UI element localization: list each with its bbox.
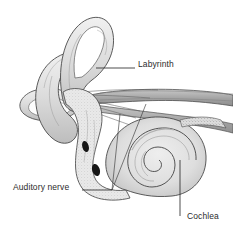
- label-cochlea: Cochlea: [187, 211, 219, 221]
- anatomy-illustration: [0, 0, 233, 241]
- inner-ear-figure: Labyrinth Auditory nerve Cochlea: [0, 0, 233, 241]
- label-labyrinth: Labyrinth: [138, 59, 174, 69]
- label-auditory-nerve: Auditory nerve: [13, 182, 69, 192]
